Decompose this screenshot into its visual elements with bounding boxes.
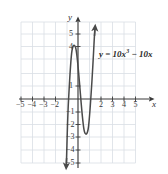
figure-background <box>0 0 168 174</box>
x-axis-label: x <box>152 100 156 109</box>
x-tick-label-3: 3 <box>111 101 115 109</box>
curve-equation-label: y = 10x3 − 10x <box>99 50 153 59</box>
curve-arrow-up <box>95 27 96 36</box>
x-tick-label-neg2: −2 <box>51 101 60 109</box>
y-tick-label-neg1: −1 <box>66 108 75 116</box>
x-tick-label-neg4: −4 <box>28 101 37 109</box>
x-tick-label-5: 5 <box>134 101 138 109</box>
y-tick-label-neg4: −4 <box>66 146 75 154</box>
coordinate-plane <box>0 0 168 174</box>
x-tick-label-neg3: −3 <box>39 101 48 109</box>
x-tick-label-neg5: −5 <box>16 101 25 109</box>
x-tick-label-4: 4 <box>122 101 126 109</box>
x-tick-label-2: 2 <box>99 101 103 109</box>
y-tick-label-neg5: −5 <box>66 159 75 167</box>
y-tick-label-1: 1 <box>69 82 73 90</box>
graph-figure: y x −5 −4 −3 −2 2 3 4 5 5 4 1 −1 −2 −3 −… <box>0 0 168 174</box>
equation-base: y = 10x <box>99 49 126 59</box>
y-axis-label: y <box>68 13 72 22</box>
y-tick-label-5: 5 <box>69 30 73 38</box>
y-tick-label-4: 4 <box>69 43 73 51</box>
equation-tail: − 10x <box>129 49 152 59</box>
y-tick-label-neg3: −3 <box>66 133 75 141</box>
y-tick-label-neg2: −2 <box>66 121 75 129</box>
